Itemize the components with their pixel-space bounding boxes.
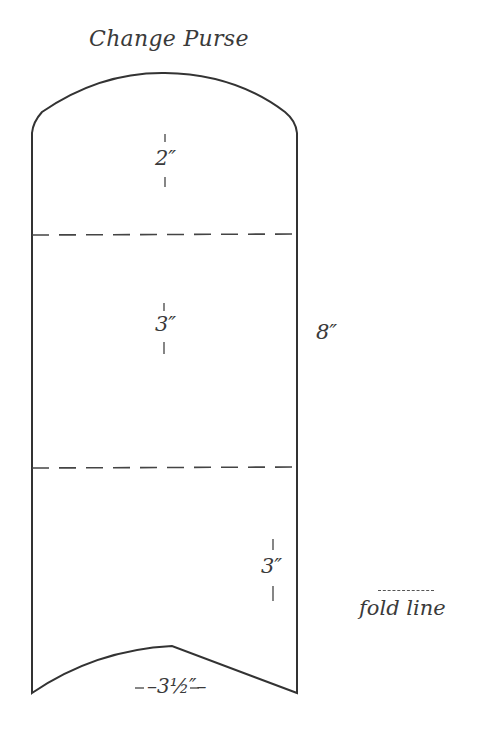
dim-bottom-section: 3″ [261,554,282,578]
fold-line-legend-sample [378,590,434,591]
dim-top-flap: 2″ [155,146,176,170]
fold-line-upper [32,234,297,235]
fold-line-legend-label: fold line [359,596,446,620]
dim-total-height: 8″ [316,320,337,344]
fold-line-lower [32,467,297,468]
dim-middle-section: 3″ [155,312,176,336]
dim-width: –3½″– [147,674,207,698]
